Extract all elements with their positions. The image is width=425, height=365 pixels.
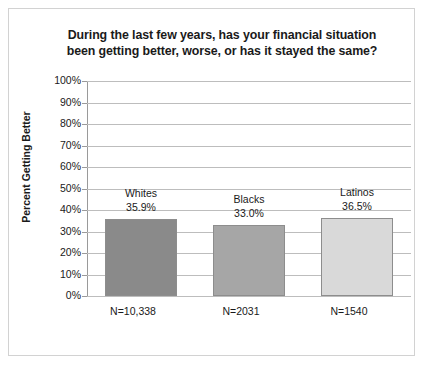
plot-area: 100%90%80%70%60%50%40%30%20%10%0% Whites… [87, 81, 411, 296]
y-axis-tick-label: 50% [33, 182, 81, 194]
y-axis-tick-label: 40% [33, 203, 81, 215]
y-axis-tick-label: 10% [33, 268, 81, 280]
bar-category-label: Whites [81, 187, 201, 199]
gridline [87, 296, 411, 297]
gridline [87, 124, 411, 125]
y-axis-tick [82, 167, 87, 168]
y-axis-tick-label: 20% [33, 246, 81, 258]
bar-category-label: Blacks [189, 193, 309, 205]
y-axis-tick-label: 80% [33, 117, 81, 129]
gridline [87, 146, 411, 147]
x-axis-tick-label: N=1540 [289, 305, 409, 317]
gridline [87, 167, 411, 168]
y-axis-tick-label: 90% [33, 96, 81, 108]
chart-title: During the last few years, has your fina… [39, 27, 405, 59]
gridline [87, 103, 411, 104]
chart-title-line-1: During the last few years, has your fina… [68, 28, 376, 42]
y-axis-tick [82, 253, 87, 254]
bar-category-label: Latinos [297, 186, 417, 198]
chart-title-line-2: been getting better, worse, or has it st… [67, 44, 378, 58]
bar-value-label: 33.0% [189, 207, 309, 219]
y-axis-tick-label: 30% [33, 225, 81, 237]
y-axis-tick [82, 275, 87, 276]
bar-value-label: 35.9% [81, 201, 201, 213]
y-axis-tick [82, 296, 87, 297]
bar-blacks[interactable] [213, 225, 285, 296]
chart-frame: During the last few years, has your fina… [8, 8, 415, 356]
x-axis-tick-label: N=10,338 [73, 305, 193, 317]
y-axis-tick-label: 0% [33, 289, 81, 301]
gridline [87, 81, 411, 82]
y-axis-tick-label: 100% [33, 74, 81, 86]
bar-whites[interactable] [105, 219, 177, 296]
x-axis-tick-label: N=2031 [181, 305, 301, 317]
y-axis-tick [82, 146, 87, 147]
y-axis-tick-label: 70% [33, 139, 81, 151]
y-axis-tick [82, 232, 87, 233]
y-axis-tick [82, 103, 87, 104]
y-axis-tick [82, 124, 87, 125]
bar-value-label: 36.5% [297, 200, 417, 212]
y-axis-tick [82, 81, 87, 82]
bar-latinos[interactable] [321, 218, 393, 296]
y-axis-tick-label: 60% [33, 160, 81, 172]
y-axis-title: Percent Getting Better [20, 87, 32, 247]
